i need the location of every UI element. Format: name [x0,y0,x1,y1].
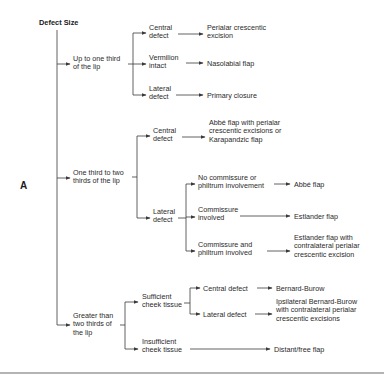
branch-label-lateral-defect: Lateral defect [149,84,173,101]
result-nasolabial-flap: Nasolabial flap [207,59,254,68]
branch-label-central-defect: Central defect [153,126,178,143]
result-abbe-flap: Abbé flap [294,180,324,189]
result-estlander-flap: Estlander flap [294,212,338,221]
group-3: Greater than two thirds of the lip Suffi… [73,284,359,355]
branch-label-central-defect: Central defect [149,23,174,40]
sub-label-commissure-involved: Commissure involved [198,205,240,222]
root-label: Defect Size [39,18,78,27]
figure-label: A [20,180,27,191]
result-ipsilateral-bernard-burow: Ipsilateral Bernard-Burow with contralat… [275,297,359,323]
result-primary-closure: Primary closure [207,91,257,100]
branch-label-insufficient-cheek-tissue: Insufficient cheek tissue [142,337,182,354]
group-1-label: Up to one third of the lip [73,54,122,71]
sub-label-lateral-defect: Lateral defect [203,310,247,319]
branch-label-sufficient-cheek-tissue: Sufficient cheek tissue [142,292,182,309]
group-2: One third to two thirds of the lip Centr… [73,118,362,259]
result-abbe-flap-perialar: Abbé flap with perialar crescentic excis… [209,118,283,144]
result-distant-free-flap: Distant/free flap [274,345,324,354]
sub-label-central-defect: Central defect [203,284,248,293]
sub-label-commissure-and-philtrum: Commissure and philtrum involved [198,240,254,257]
sub-label-no-commissure: No commissure or philtrum involvement [198,173,264,190]
group-3-label: Greater than two thirds of the lip [73,311,115,337]
result-perialar-crescentic-excision: Perialar crescentic excision [207,23,268,40]
branch-label-lateral-defect: Lateral defect [153,207,177,224]
group-1: Up to one third of the lip Central defec… [73,23,268,101]
result-estlander-flap-contralateral: Estlander flap with contralateral perial… [294,233,362,259]
result-bernard-burow: Bernard-Burow [276,284,325,293]
group-2-label: One third to two thirds of the lip [73,168,126,185]
decision-tree-diagram: Defect Size A Up to one third of the lip… [0,0,384,378]
branch-label-vermilion-intact: Vermilion intact [149,53,181,70]
